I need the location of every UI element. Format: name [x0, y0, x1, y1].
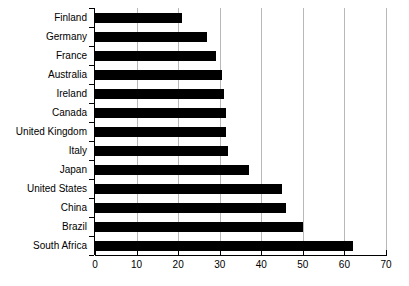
x-tick-mark [95, 250, 96, 256]
category-label: Germany [46, 31, 87, 43]
x-tick-label: 10 [131, 259, 142, 271]
y-tick-mark [89, 141, 94, 142]
x-tick-mark [386, 250, 387, 256]
y-tick-mark [89, 84, 94, 85]
x-tick-mark [178, 250, 179, 256]
y-tick-mark [89, 255, 94, 256]
x-tick-label: 70 [380, 259, 391, 271]
x-tick-mark [261, 250, 262, 256]
y-tick-mark [89, 122, 94, 123]
y-tick-mark [89, 27, 94, 28]
y-tick-mark [89, 46, 94, 47]
category-label: Canada [52, 107, 87, 119]
x-tick-mark [344, 250, 345, 256]
x-tick-label: 50 [297, 259, 308, 271]
x-tick-mark [137, 250, 138, 256]
bar [95, 32, 207, 42]
category-label: Australia [48, 69, 87, 81]
category-label: United Kingdom [16, 126, 87, 138]
category-label: Brazil [62, 221, 87, 233]
y-tick-mark [89, 179, 94, 180]
x-tick-mark [220, 250, 221, 256]
category-label: United States [27, 183, 87, 195]
x-tick-label: 30 [214, 259, 225, 271]
x-tick-mark [303, 250, 304, 256]
bar [95, 241, 353, 251]
bar [95, 165, 249, 175]
bar-chart: FinlandGermanyFranceAustraliaIrelandCana… [0, 0, 409, 286]
gridline [261, 8, 262, 255]
category-label: Italy [69, 145, 87, 157]
x-tick-label: 0 [92, 259, 98, 271]
category-label: Japan [60, 164, 87, 176]
gridline [344, 8, 345, 255]
y-tick-mark [89, 65, 94, 66]
category-label: South Africa [33, 240, 87, 252]
y-tick-mark [89, 217, 94, 218]
y-tick-mark [89, 103, 94, 104]
category-label: China [61, 202, 87, 214]
bar [95, 108, 226, 118]
category-label: Ireland [56, 88, 87, 100]
bar [95, 222, 303, 232]
y-tick-mark [89, 236, 94, 237]
category-label: Finland [54, 12, 87, 24]
bar [95, 13, 182, 23]
y-tick-mark [89, 160, 94, 161]
bar [95, 184, 282, 194]
bar [95, 51, 216, 61]
y-tick-mark [89, 8, 94, 9]
y-axis-labels: FinlandGermanyFranceAustraliaIrelandCana… [0, 0, 87, 286]
bar [95, 127, 226, 137]
category-label: France [56, 50, 87, 62]
bar [95, 146, 228, 156]
x-tick-label: 20 [173, 259, 184, 271]
x-tick-label: 60 [339, 259, 350, 271]
y-tick-mark [89, 198, 94, 199]
bar [95, 89, 224, 99]
bar [95, 70, 222, 80]
gridline [303, 8, 304, 255]
x-tick-label: 40 [256, 259, 267, 271]
bar [95, 203, 286, 213]
gridline [386, 8, 387, 255]
